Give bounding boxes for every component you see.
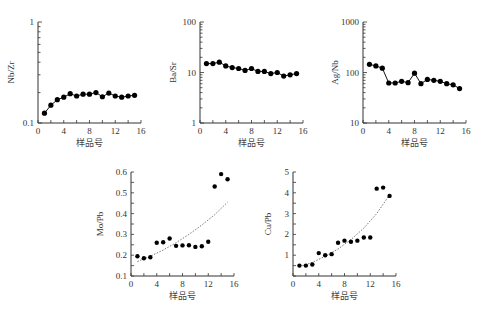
x-axis-title: 样品号	[169, 290, 196, 301]
data-point	[317, 251, 321, 255]
y-tick-label: 2	[285, 229, 290, 239]
x-tick-label: 4	[317, 279, 322, 289]
x-tick-label: 4	[387, 126, 392, 136]
data-point	[342, 238, 346, 242]
x-tick-label: 8	[180, 279, 185, 289]
data-point	[368, 235, 372, 239]
data-point	[418, 81, 423, 86]
y-tick-label: 0.1	[116, 271, 127, 281]
data-point	[100, 94, 105, 99]
y-tick-label: 1000	[341, 17, 360, 27]
y-axis-title: Ba/Sr	[168, 62, 178, 83]
x-tick-label: 16	[230, 279, 240, 289]
data-point	[74, 93, 79, 98]
y-tick-label: 4	[285, 188, 290, 198]
x-tick-label: 16	[299, 126, 309, 136]
data-point	[281, 73, 286, 78]
y-tick-label: 0.1	[23, 118, 34, 128]
data-point	[249, 66, 254, 71]
data-point	[187, 243, 191, 247]
chart-canvas: 04812160.11Nb/Zr样品号0481216110100Ba/Sr样品号…	[0, 0, 477, 315]
x-axis-title: 样品号	[401, 137, 428, 148]
data-point	[219, 172, 223, 176]
data-point	[374, 186, 378, 190]
data-point	[367, 62, 372, 67]
data-point	[148, 255, 152, 259]
data-point	[217, 60, 222, 65]
data-point	[349, 239, 353, 243]
y-tick-label: 100	[183, 17, 197, 27]
data-point	[210, 61, 215, 66]
data-point	[212, 184, 216, 188]
data-point	[93, 90, 98, 95]
data-point	[262, 69, 267, 74]
y-axis-title: Mo/Pb	[95, 211, 105, 236]
data-point	[438, 79, 443, 84]
data-point	[362, 235, 366, 239]
data-point	[106, 90, 111, 95]
data-point	[206, 239, 210, 243]
data-point	[225, 177, 229, 181]
trendline	[137, 202, 227, 261]
data-point	[155, 241, 159, 245]
x-tick-label: 4	[62, 126, 67, 136]
x-tick-label: 8	[249, 126, 254, 136]
x-tick-label: 12	[366, 279, 375, 289]
y-axis-title: Ag/Nb	[330, 60, 340, 85]
data-point	[68, 91, 73, 96]
data-point	[268, 71, 273, 76]
trendline	[299, 195, 389, 267]
data-point	[55, 97, 60, 102]
data-point	[310, 262, 314, 266]
y-tick-label: 10	[350, 118, 360, 128]
y-tick-label: 0.4	[116, 209, 128, 219]
x-tick-label: 8	[87, 126, 92, 136]
data-point	[167, 236, 171, 240]
data-point	[135, 254, 139, 258]
data-point	[42, 111, 47, 116]
data-point	[451, 82, 456, 87]
y-tick-label: 0.3	[116, 229, 128, 239]
data-point	[61, 95, 66, 100]
data-point	[180, 243, 184, 247]
data-point	[393, 80, 398, 85]
data-point	[113, 93, 118, 98]
data-point	[399, 79, 404, 84]
data-point	[304, 263, 308, 267]
x-tick-label: 12	[273, 126, 282, 136]
y-axis-title: Cu/Pb	[263, 212, 273, 235]
nbzr-chart: 04812160.11Nb/Zr样品号	[6, 17, 146, 148]
data-point	[223, 63, 228, 68]
y-tick-label: 0.6	[116, 167, 128, 177]
data-point	[381, 185, 385, 189]
x-tick-label: 4	[224, 126, 229, 136]
data-point	[142, 256, 146, 260]
x-tick-label: 16	[392, 279, 402, 289]
data-point	[323, 253, 327, 257]
x-tick-label: 0	[36, 126, 41, 136]
data-point	[380, 66, 385, 71]
data-point	[87, 92, 92, 97]
data-point	[336, 241, 340, 245]
data-point	[457, 86, 462, 91]
data-point	[119, 95, 124, 100]
data-point	[236, 66, 241, 71]
x-tick-label: 8	[342, 279, 347, 289]
data-point	[294, 71, 299, 76]
y-tick-label: 0.5	[116, 188, 128, 198]
y-tick-label: 3	[285, 209, 290, 219]
data-point	[405, 80, 410, 85]
x-tick-label: 12	[204, 279, 213, 289]
x-tick-label: 8	[412, 126, 417, 136]
y-tick-label: 100	[346, 68, 360, 78]
data-point	[161, 240, 165, 244]
y-tick-label: 1	[192, 118, 197, 128]
y-tick-label: 1	[30, 17, 35, 27]
data-point	[329, 252, 333, 256]
data-point	[80, 92, 85, 97]
y-tick-label: 0.2	[116, 250, 127, 260]
data-point	[373, 63, 378, 68]
data-point	[255, 69, 260, 74]
agnb-chart: 0481216101001000Ag/Nb样品号	[330, 17, 471, 148]
data-point	[193, 245, 197, 249]
